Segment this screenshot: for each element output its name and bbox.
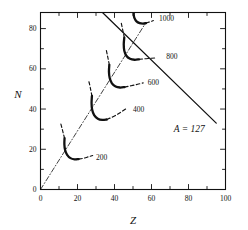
curve-stability-valley: [41, 23, 146, 190]
curve-label-400: 400: [133, 105, 145, 114]
curve-label-600: 600: [148, 78, 160, 87]
curve-label-800: 800: [166, 52, 178, 61]
curve-800-dashed-tail-up: [121, 23, 124, 38]
y-tick-label-40: 40: [29, 105, 37, 114]
curve-800-dashed-tail-right: [139, 58, 155, 59]
curve-400-dashed-tail-up: [89, 80, 92, 95]
x-tick-label-40: 40: [111, 194, 119, 203]
plot-frame: [41, 13, 226, 190]
curve-600-hook: [109, 65, 125, 88]
curve-label-1000: 1000: [159, 14, 174, 23]
curve-200-dashed-tail-right: [79, 156, 93, 160]
y-tick-label-80: 80: [29, 24, 37, 33]
mass-number-annotation: A = 127: [173, 124, 206, 134]
y-axis-label: N: [13, 88, 22, 100]
x-tick-label-60: 60: [148, 194, 156, 203]
y-tick-label-0: 0: [33, 185, 37, 194]
curve-400-dashed-tail-right: [107, 109, 126, 119]
curve-600-dashed-tail-right: [124, 83, 143, 87]
curve-200-dashed-tail-up: [61, 124, 65, 138]
y-tick-label-20: 20: [29, 145, 37, 154]
x-axis-label: Z: [130, 214, 137, 226]
x-tick-label-0: 0: [39, 194, 43, 203]
figure-container: 020406080100020406080ZN2004006008001000A…: [0, 0, 248, 230]
x-tick-label-80: 80: [185, 194, 193, 203]
curve-600-dashed-tail-up: [106, 50, 109, 65]
plot-curves: [41, 10, 217, 189]
curve-label-200: 200: [96, 153, 108, 162]
curve-400-hook: [92, 96, 107, 120]
n-vs-z-chart: 020406080100020406080ZN2004006008001000A…: [0, 0, 248, 230]
curve-1000-dashed-tail-right: [146, 21, 153, 24]
y-tick-label-60: 60: [29, 64, 37, 73]
curve-mass-127-line: [102, 13, 216, 124]
x-tick-label-20: 20: [74, 194, 82, 203]
x-tick-label-100: 100: [220, 194, 232, 203]
